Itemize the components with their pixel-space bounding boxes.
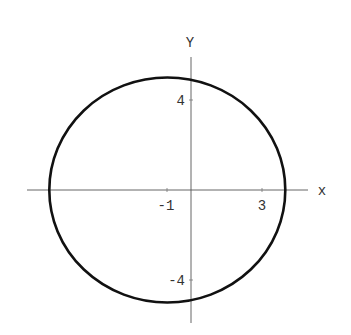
y-axis-label: Y bbox=[186, 35, 195, 51]
y-tick-label-4: 4 bbox=[177, 93, 185, 109]
y-tick-label-neg4: -4 bbox=[168, 273, 185, 289]
x-tick-label-3: 3 bbox=[258, 198, 266, 214]
chart: -1 3 4 -4 x Y bbox=[0, 0, 351, 335]
x-axis-label: x bbox=[318, 183, 326, 199]
x-tick-label-neg1: -1 bbox=[158, 198, 175, 214]
